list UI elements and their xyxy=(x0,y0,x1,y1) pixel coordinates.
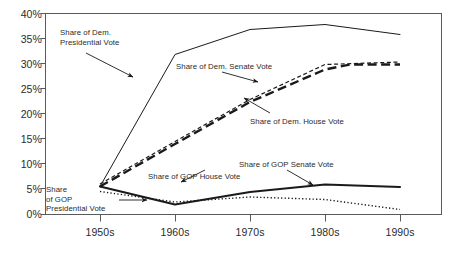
series-dem-presidential-vote xyxy=(100,25,400,187)
y-axis-ticks xyxy=(41,14,46,215)
leader-gop-house xyxy=(181,170,205,182)
series-gop-presidential-vote xyxy=(100,192,400,210)
leader-dem-presidential xyxy=(86,53,133,77)
series-dem-senate-vote xyxy=(100,62,400,184)
plot-area xyxy=(0,0,453,253)
annotation-leader-lines xyxy=(86,53,313,200)
leader-dem-senate xyxy=(222,72,258,82)
line-chart: 40% 35% 30% 25% 20% 15% 10% 5% 0% 1950s … xyxy=(0,0,453,253)
series-gop-senate-vote xyxy=(100,185,400,205)
x-axis-ticks xyxy=(101,215,401,222)
series-dem-house-vote xyxy=(100,65,400,187)
leader-gop-senate xyxy=(287,170,313,185)
